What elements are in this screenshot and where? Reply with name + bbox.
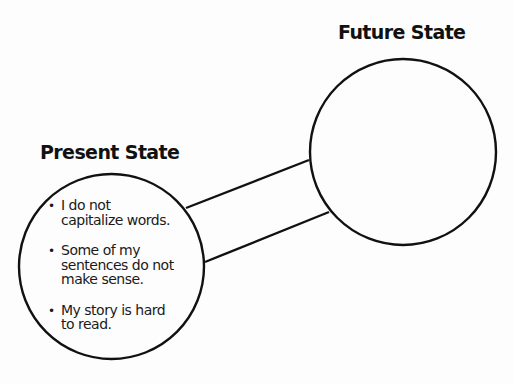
diagram-canvas: Future State Present State • I do not ca… bbox=[0, 0, 514, 384]
present-state-list: • I do not capitalize words. • Some of m… bbox=[44, 198, 204, 332]
future-state-circle bbox=[310, 59, 496, 245]
future-state-title: Future State bbox=[338, 22, 465, 42]
bullet-icon: • bbox=[48, 199, 55, 213]
list-item-text: Some of my sentences do not make sense. bbox=[61, 243, 204, 287]
bridge-top-line bbox=[186, 160, 309, 208]
bridge-bottom-line bbox=[205, 212, 329, 262]
list-item: • I do not capitalize words. bbox=[44, 198, 204, 227]
list-item: • My story is hard to read. bbox=[44, 303, 204, 332]
list-item: • Some of my sentences do not make sense… bbox=[44, 243, 204, 287]
bullet-icon: • bbox=[48, 244, 55, 258]
list-item-text: I do not capitalize words. bbox=[61, 198, 204, 227]
present-state-title: Present State bbox=[40, 142, 179, 162]
list-item-text: My story is hard to read. bbox=[61, 303, 204, 332]
bullet-icon: • bbox=[48, 304, 55, 318]
